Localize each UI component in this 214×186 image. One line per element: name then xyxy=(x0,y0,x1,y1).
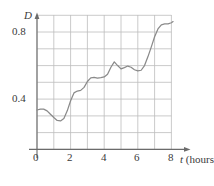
x-tick-label-8: 8 xyxy=(168,152,174,163)
data-series-line xyxy=(37,22,173,121)
y-tick-label-0.8: 0.8 xyxy=(12,26,26,37)
x-tick-label-6: 6 xyxy=(134,152,140,163)
chart-figure: D 0.8 0.4 0 2 4 6 8 t (hours) xyxy=(0,0,214,186)
x-tick-label-0: 0 xyxy=(33,152,39,163)
x-axis-title: t (hours) xyxy=(180,154,214,165)
y-tick-label-0.4: 0.4 xyxy=(12,93,26,104)
x-tick-label-2: 2 xyxy=(67,152,73,163)
y-axis-title: D xyxy=(24,10,32,21)
chart-axes xyxy=(29,13,191,159)
x-axis-variable: t xyxy=(180,153,183,165)
x-axis-unit: (hours) xyxy=(186,153,214,165)
x-tick-label-4: 4 xyxy=(101,152,107,163)
